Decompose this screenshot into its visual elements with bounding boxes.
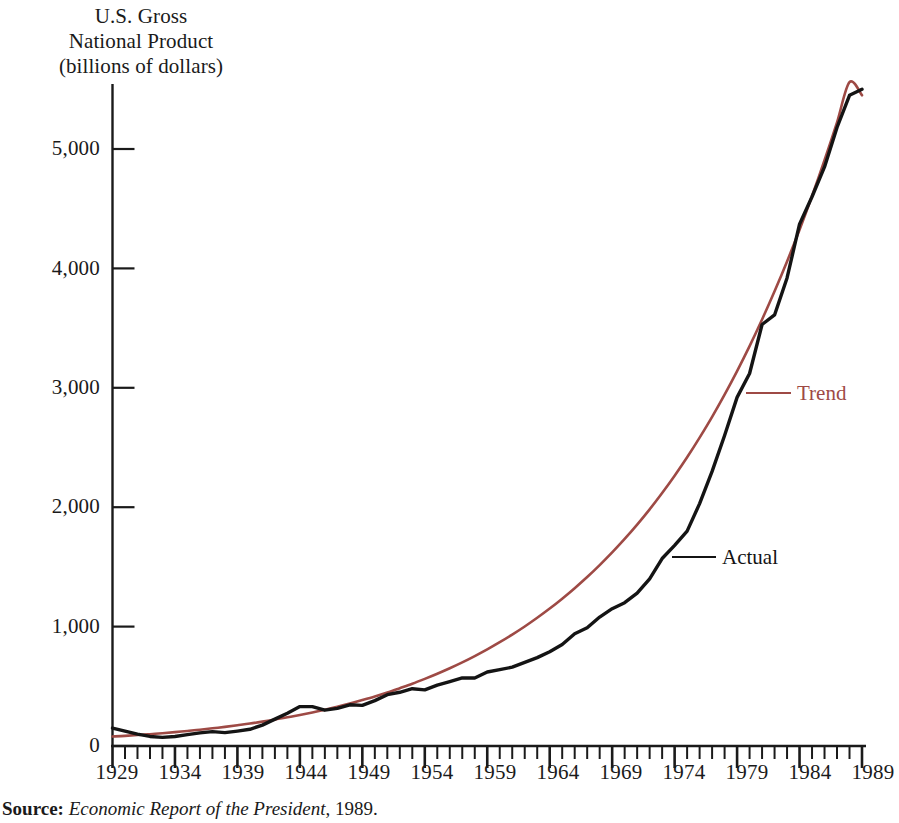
source-year: , 1989. [325,798,377,819]
x-axis-ticks [113,746,863,768]
actual-series-line [113,89,863,737]
trend-series-label: Trend [797,383,846,404]
y-axis-ticks [113,149,135,746]
source-title: Economic Report of the President [69,798,326,819]
source-note: Source: Economic Report of the President… [2,798,378,820]
source-key: Source: [2,798,64,819]
trend-series-line [113,81,863,736]
actual-series-label: Actual [722,547,778,568]
